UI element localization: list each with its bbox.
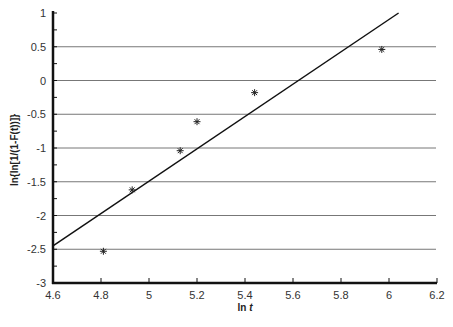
asterisk-marker [129, 186, 136, 193]
asterisk-marker [251, 89, 258, 96]
y-tick-label: -2 [36, 210, 46, 222]
y-tick-label: -0.5 [27, 108, 46, 120]
y-tick-label: 0 [40, 75, 46, 87]
data-points [100, 46, 385, 255]
y-axis-label: ln{ln[1/(1-F(t))]} [9, 114, 20, 186]
x-tick-label: 5.4 [237, 289, 252, 301]
asterisk-marker [177, 147, 184, 154]
x-tick-label: 5 [146, 289, 152, 301]
x-tick-label: 6 [386, 289, 392, 301]
y-tick-labels: 10.50-0.5-1-1.5-2-2.5-3 [27, 7, 46, 289]
y-tick-label: -1.5 [27, 176, 46, 188]
y-tick-label: 0.5 [31, 41, 46, 53]
asterisk-marker [100, 248, 107, 255]
x-axis-label: ln t [237, 302, 253, 313]
x-tick-label: 5.6 [285, 289, 300, 301]
x-tick-label: 5.8 [333, 289, 348, 301]
y-tick-label: -3 [36, 277, 46, 289]
x-tick-label: 5.2 [189, 289, 204, 301]
x-tick-labels: 4.64.855.25.45.65.866.2 [45, 289, 444, 301]
x-tick-label: 4.6 [45, 289, 60, 301]
asterisk-marker [194, 118, 201, 125]
x-tick-label: 4.8 [93, 289, 108, 301]
fit-line [53, 13, 399, 246]
y-tick-label: 1 [40, 7, 46, 19]
weibull-plot: 10.50-0.5-1-1.5-2-2.5-3 4.64.855.25.45.6… [0, 0, 453, 327]
gridlines [53, 47, 436, 250]
y-tick-label: -1 [36, 142, 46, 154]
y-tick-label: -2.5 [27, 243, 46, 255]
x-tick-label: 6.2 [429, 289, 444, 301]
